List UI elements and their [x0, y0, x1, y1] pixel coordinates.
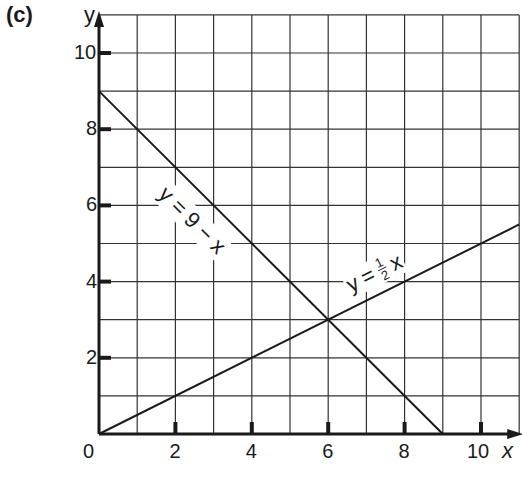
x-axis-label: x: [502, 438, 513, 464]
fraction-denominator: 2: [379, 268, 391, 283]
y-tick-label: 2: [86, 346, 97, 369]
y-tick-label: 10: [74, 41, 96, 64]
y-axis-arrow-icon: [94, 11, 104, 27]
x-tick-label: 2: [169, 440, 180, 463]
chart-plot-area: [0, 0, 522, 480]
series-line-2: [99, 224, 519, 434]
x-tick-label: 6: [322, 440, 333, 463]
x-tick-label: 0: [83, 440, 94, 463]
y-tick-label: 4: [86, 270, 97, 293]
x-tick-label: 8: [399, 440, 410, 463]
y-tick-label: 6: [86, 193, 97, 216]
y-tick-label: 8: [86, 117, 97, 140]
x-tick-label: 4: [246, 440, 257, 463]
x-tick-label: 10: [467, 440, 489, 463]
y-axis-label: y: [84, 2, 95, 28]
